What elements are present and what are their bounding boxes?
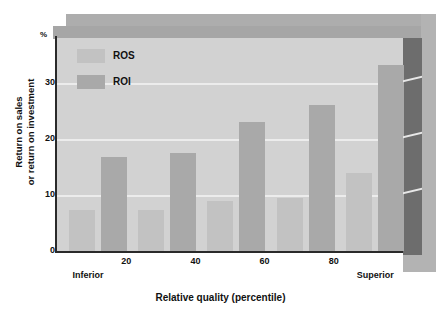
x-tick-label-60: 60 <box>250 256 280 266</box>
bar-roi-10 <box>101 157 127 251</box>
legend-label-ros: ROS <box>113 50 135 61</box>
y-tick-label-0: 0 <box>15 245 55 255</box>
bar-ros-70 <box>277 198 303 251</box>
y-axis-title-line1: Return on sales <box>13 62 25 202</box>
bar-roi-90 <box>378 65 404 251</box>
y-axis-line <box>55 36 57 253</box>
bar-roi-70 <box>309 105 335 251</box>
x-tick-label-80: 80 <box>319 256 349 266</box>
x-axis-title: Relative quality (percentile) <box>0 292 441 303</box>
gridline-30 <box>57 83 403 85</box>
bar-ros-30 <box>138 210 164 251</box>
x-axis-high-label: Superior <box>340 270 410 280</box>
bar-ros-90 <box>346 173 372 251</box>
y-axis-title-line2: or return on investment <box>25 62 37 202</box>
legend-label-roi: ROI <box>113 76 131 87</box>
legend-swatch-roi <box>77 75 105 89</box>
bar-roi-30 <box>170 153 196 251</box>
bar-ros-50 <box>207 201 233 251</box>
chart-figure: % 0102030 20406080 Inferior Superior Rel… <box>0 0 441 313</box>
bar-roi-50 <box>239 122 265 251</box>
chart-3d-right-wall <box>403 38 422 272</box>
x-tick-label-40: 40 <box>180 256 210 266</box>
x-tick-label-20: 20 <box>111 256 141 266</box>
legend-swatch-ros <box>77 49 105 63</box>
chart-3d-right-outer-panel <box>421 14 436 272</box>
x-axis-low-label: Inferior <box>53 270 123 280</box>
y-axis-title: Return on sales or return on investment <box>13 62 37 202</box>
gridline-20 <box>57 139 403 141</box>
bar-ros-10 <box>69 210 95 251</box>
plot-area <box>57 38 403 251</box>
x-axis-line <box>55 251 403 253</box>
